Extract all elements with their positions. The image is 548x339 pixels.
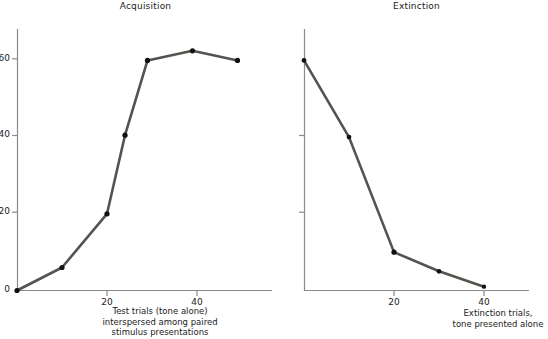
extinction-point-1: [347, 135, 352, 140]
extinction-point-2: [391, 250, 396, 255]
acquisition-y-ticks: [12, 59, 18, 212]
acquisition-ytick-label-0: 0: [0, 284, 10, 294]
acquisition-ytick-label-20: 20: [0, 206, 10, 216]
acquisition-point-4: [145, 58, 150, 63]
extinction-point-3: [437, 269, 442, 274]
panel-acquisition: Acquisition: [0, 0, 280, 339]
extinction-data-markers: [302, 58, 487, 289]
acquisition-point-6: [235, 58, 240, 63]
acquisition-data-line: [17, 51, 238, 291]
extinction-plot-area: [280, 0, 529, 339]
extinction-point-4: [482, 284, 486, 288]
acquisition-point-2: [104, 211, 109, 216]
acquisition-point-3: [122, 133, 127, 138]
extinction-xtick-label-20: 20: [379, 297, 409, 307]
extinction-point-0: [302, 58, 307, 63]
extinction-y-ticks: [299, 136, 305, 213]
acquisition-x-axis-caption: Test trials (tone alone) interspersed am…: [55, 306, 265, 338]
panel-extinction: Extinction: [280, 0, 529, 339]
acquisition-data-markers: [14, 48, 240, 293]
acquisition-ytick-label-40: 40: [0, 129, 10, 139]
acquisition-plot-area: [0, 0, 280, 339]
extinction-x-ticks: [394, 291, 484, 297]
acquisition-x-ticks: [107, 291, 197, 297]
extinction-xtick-label-40: 40: [469, 297, 499, 307]
extinction-x-axis-caption: Extinction trials, tone presented alone: [398, 308, 548, 329]
acquisition-ytick-label-60: 60: [0, 53, 10, 63]
acquisition-point-0: [14, 288, 19, 293]
acquisition-point-5: [190, 48, 195, 53]
acquisition-point-1: [59, 265, 64, 270]
